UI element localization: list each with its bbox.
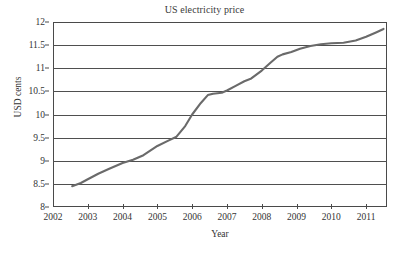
x-tick-mark (88, 204, 89, 209)
x-axis-label: Year (53, 229, 387, 239)
y-tick-label: 11.5 (29, 40, 45, 50)
y-tick-label: 10 (36, 110, 46, 120)
y-tick-label: 11 (36, 63, 45, 73)
y-tick-mark (45, 22, 49, 23)
x-tick-label: 2006 (183, 212, 202, 222)
x-tick-mark (297, 204, 298, 209)
y-tick-label: 10.5 (28, 86, 45, 96)
x-tick-mark (227, 204, 228, 209)
x-tick-label: 2009 (287, 212, 306, 222)
x-tick-mark (262, 204, 263, 209)
x-tick-label: 2004 (113, 212, 132, 222)
y-tick-mark (45, 45, 49, 46)
chart-title: US electricity price (0, 4, 409, 15)
y-tick-label: 8.5 (33, 179, 45, 189)
line-series-svg (53, 22, 387, 207)
x-tick-label: 2011 (357, 212, 376, 222)
y-tick-mark (45, 183, 49, 184)
x-tick-label: 2003 (78, 212, 97, 222)
chart-figure: US electricity price USD cents 88.599.51… (0, 0, 409, 254)
x-tick-mark (123, 204, 124, 209)
series-layer (53, 22, 387, 207)
y-tick-mark (45, 114, 49, 115)
y-tick-mark (45, 91, 49, 92)
y-tick-label: 12 (36, 17, 46, 27)
x-tick-mark (157, 204, 158, 209)
y-tick-mark (45, 207, 49, 208)
x-tick-label: 2007 (217, 212, 236, 222)
x-tick-mark (192, 204, 193, 209)
y-tick-mark (45, 137, 49, 138)
y-tick-label: 9.5 (33, 133, 45, 143)
x-tick-label: 2005 (148, 212, 167, 222)
plot-area (53, 22, 387, 207)
y-axis-ticklabels: 88.599.51010.51111.512 (0, 22, 49, 207)
x-axis-ticklabels: 2002200320042005200620072008200920102011 (53, 209, 387, 225)
x-tick-mark (366, 204, 367, 209)
line-series-path (72, 29, 383, 186)
y-tick-mark (45, 160, 49, 161)
x-tick-mark (331, 204, 332, 209)
x-tick-label: 2010 (322, 212, 341, 222)
x-tick-label: 2002 (44, 212, 63, 222)
x-tick-label: 2008 (252, 212, 271, 222)
y-tick-mark (45, 68, 49, 69)
